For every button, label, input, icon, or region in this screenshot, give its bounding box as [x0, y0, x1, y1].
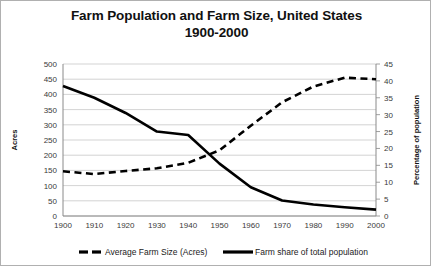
- svg-text:150: 150: [44, 166, 58, 175]
- svg-text:45: 45: [384, 60, 393, 69]
- svg-text:40: 40: [384, 77, 393, 86]
- svg-text:Farm share of total population: Farm share of total population: [255, 247, 368, 257]
- y-axis-label: Acres: [10, 130, 19, 151]
- svg-text:1990: 1990: [336, 221, 354, 230]
- svg-text:1920: 1920: [117, 221, 135, 230]
- x-axis-ticks: 1900191019201930194019501960197019801990…: [54, 221, 385, 230]
- svg-text:25: 25: [384, 128, 393, 137]
- gridlines: [63, 64, 376, 216]
- svg-text:500: 500: [44, 60, 58, 69]
- svg-text:1940: 1940: [179, 221, 197, 230]
- svg-text:1910: 1910: [85, 221, 103, 230]
- y2-axis-ticks: 051015202530354045: [376, 60, 393, 221]
- svg-text:1930: 1930: [148, 221, 166, 230]
- svg-text:10: 10: [384, 178, 393, 187]
- svg-text:400: 400: [44, 90, 58, 99]
- svg-text:2000: 2000: [367, 221, 385, 230]
- svg-text:1950: 1950: [211, 221, 229, 230]
- svg-text:300: 300: [44, 121, 58, 130]
- svg-text:Average Farm Size (Acres): Average Farm Size (Acres): [105, 247, 208, 257]
- svg-text:20: 20: [384, 144, 393, 153]
- svg-text:200: 200: [44, 151, 58, 160]
- svg-text:250: 250: [44, 136, 58, 145]
- svg-text:1900: 1900: [54, 221, 72, 230]
- svg-text:35: 35: [384, 94, 393, 103]
- svg-text:100: 100: [44, 182, 58, 191]
- chart-container: Farm Population and Farm Size, United St…: [0, 0, 431, 266]
- svg-text:1960: 1960: [242, 221, 260, 230]
- y2-axis-label: Percentage of population: [412, 95, 421, 185]
- svg-text:30: 30: [384, 111, 393, 120]
- svg-text:0: 0: [53, 212, 58, 221]
- svg-text:5: 5: [384, 195, 389, 204]
- y-axis-ticks: 050100150200250300350400450500: [44, 60, 58, 221]
- svg-text:350: 350: [44, 106, 58, 115]
- svg-text:1980: 1980: [305, 221, 323, 230]
- svg-text:0: 0: [384, 212, 389, 221]
- svg-text:1970: 1970: [273, 221, 291, 230]
- chart-legend: Average Farm Size (Acres)Farm share of t…: [79, 247, 368, 257]
- svg-text:50: 50: [48, 197, 57, 206]
- data-series: [63, 78, 376, 210]
- chart-plot: 050100150200250300350400450500 051015202…: [1, 1, 432, 267]
- svg-text:15: 15: [384, 161, 393, 170]
- svg-text:450: 450: [44, 75, 58, 84]
